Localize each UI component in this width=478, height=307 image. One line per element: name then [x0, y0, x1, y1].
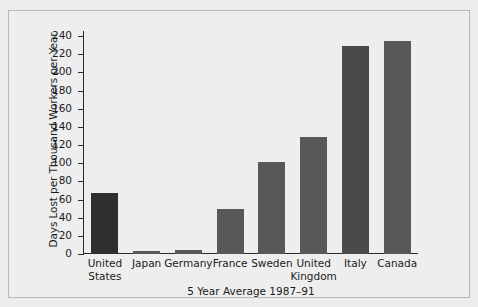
bar: [300, 137, 327, 254]
y-axis-tick-label: 80: [59, 174, 72, 186]
x-axis-tick-label: Canada: [370, 257, 424, 270]
y-axis-tick-label: 160: [52, 102, 72, 114]
bar: [217, 209, 244, 254]
bar-chart-figure: Days Lost per Thousand Workers per Year …: [0, 0, 478, 307]
y-axis-tick-label: 120: [52, 138, 72, 150]
y-axis-tick-label: 40: [59, 211, 72, 223]
y-axis-tick-label: 220: [52, 47, 72, 59]
y-axis-tick-label: 140: [52, 120, 72, 132]
y-axis-tick-mark: [78, 254, 84, 255]
bar: [258, 162, 285, 254]
bar: [384, 41, 411, 254]
bar: [175, 250, 202, 254]
bar: [342, 46, 369, 254]
y-axis-tick-label: 60: [59, 193, 72, 205]
bar: [91, 193, 118, 254]
y-axis-tick-label: 20: [59, 229, 72, 241]
y-axis-tick-label: 240: [52, 29, 72, 41]
x-axis-title: 5 Year Average 1987–91: [84, 285, 418, 297]
y-axis-tick-label: 0: [65, 247, 72, 259]
y-axis-tick-label: 200: [52, 65, 72, 77]
y-axis-tick-label: 100: [52, 156, 72, 168]
bar: [133, 251, 160, 254]
y-axis-tick-label: 180: [52, 84, 72, 96]
plot-area: [84, 36, 418, 254]
